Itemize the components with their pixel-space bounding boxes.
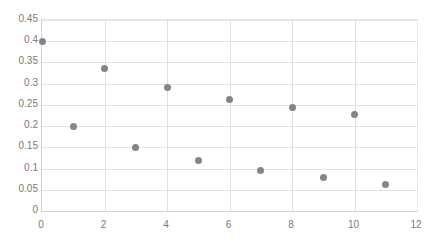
scatter-chart: 00.050.10.150.20.250.30.350.40.45 024681… xyxy=(0,0,438,243)
data-point xyxy=(382,181,389,188)
data-point xyxy=(164,84,171,91)
y-axis-tick-label: 0 xyxy=(2,205,38,215)
data-point xyxy=(226,96,233,103)
data-point xyxy=(39,38,46,45)
y-axis-tick-label: 0.3 xyxy=(2,78,38,88)
y-axis-tick-label: 0.05 xyxy=(2,184,38,194)
x-axis-tick-label: 4 xyxy=(146,220,186,230)
data-point xyxy=(289,104,296,111)
y-axis-tick-label: 0.2 xyxy=(2,120,38,130)
x-axis-tick-label: 2 xyxy=(84,220,124,230)
gridline-vertical xyxy=(105,20,106,211)
plot-area xyxy=(41,19,418,212)
gridline-vertical xyxy=(167,20,168,211)
y-axis-tick-label: 0.1 xyxy=(2,163,38,173)
x-axis-tick-label: 6 xyxy=(209,220,249,230)
data-point xyxy=(70,123,77,130)
x-axis-tick-label: 10 xyxy=(334,220,374,230)
y-axis-tick-label: 0.15 xyxy=(2,141,38,151)
data-point xyxy=(101,65,108,72)
y-axis-tick-label: 0.25 xyxy=(2,99,38,109)
data-point xyxy=(320,174,327,181)
data-point xyxy=(195,157,202,164)
y-axis-tick-label: 0.4 xyxy=(2,35,38,45)
gridline-vertical xyxy=(230,20,231,211)
x-axis-tick-label: 0 xyxy=(21,220,61,230)
y-axis: 00.050.10.150.20.250.30.350.40.45 xyxy=(0,19,38,212)
x-axis-tick-label: 8 xyxy=(271,220,311,230)
y-axis-tick-label: 0.35 xyxy=(2,56,38,66)
data-point xyxy=(257,167,264,174)
x-axis: 024681012 xyxy=(41,220,418,234)
x-axis-tick-label: 12 xyxy=(396,220,436,230)
data-point xyxy=(351,111,358,118)
data-point xyxy=(132,144,139,151)
y-axis-tick-label: 0.45 xyxy=(2,14,38,24)
gridline-vertical xyxy=(292,20,293,211)
chart-title xyxy=(0,0,438,14)
